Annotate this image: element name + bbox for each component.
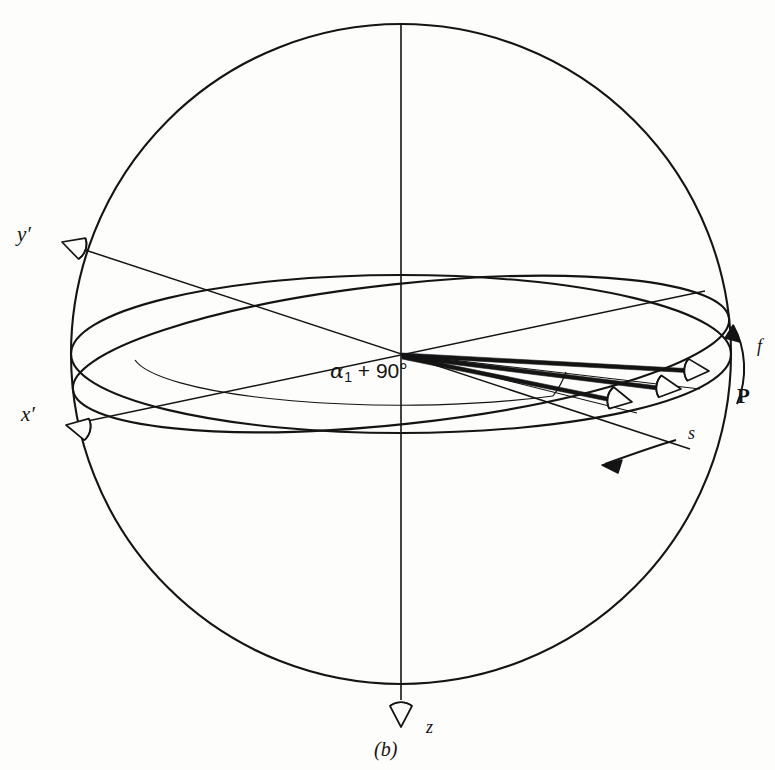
x-axis-label: x′ xyxy=(21,404,35,425)
figure-container: y′ x′ z P f s α1 + 90° (b) xyxy=(0,0,775,770)
rotation-f-label: f xyxy=(757,337,762,355)
slip-vector-1-arrowhead xyxy=(684,359,710,382)
slip-sense-arrow-shaft xyxy=(605,440,676,464)
point-p-label: P xyxy=(737,386,750,407)
z-axis-arrowhead xyxy=(390,702,412,727)
angle-label: α1 + 90° xyxy=(330,360,408,384)
slip-s-label: s xyxy=(688,424,695,442)
slip-sense-arrow-head xyxy=(602,460,622,473)
angle-alpha-symbol: α xyxy=(330,359,344,383)
y-axis-arrowhead xyxy=(59,232,89,261)
z-axis-label: z xyxy=(426,718,433,736)
focal-sphere-diagram xyxy=(0,0,775,770)
figure-caption: (b) xyxy=(374,739,397,759)
angle-operator: + xyxy=(358,359,370,382)
y-axis-label: y′ xyxy=(17,224,31,245)
angle-subscript: 1 xyxy=(344,369,352,385)
angle-value: 90° xyxy=(376,359,408,382)
